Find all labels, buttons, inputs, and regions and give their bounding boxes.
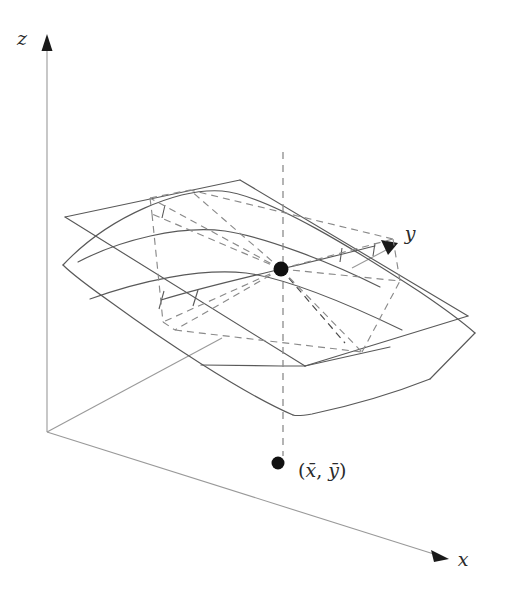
surface-tangent-plane-diagram: z y x (x̄, ȳ) [0,0,510,600]
projected-point-dot [272,457,285,470]
tangent-plane-edge-back-right [240,180,468,316]
point-label-xbar: x̄ [305,459,316,481]
tangent-ray-front-right-2 [281,269,362,352]
tick-mark-left-2 [193,290,198,306]
z-axis-arrowhead [42,34,53,51]
x-axis-arrowhead [431,550,449,562]
response-surface-edge-front [293,379,430,416]
point-label-comma: , [316,459,328,481]
point-label-ybar: ȳ [327,459,339,481]
intersection-curve [161,246,375,300]
tick-mark-right-2 [373,243,375,256]
y-axis-label: y [404,222,416,244]
projected-point-label: (x̄, ȳ) [298,459,346,481]
tangent-plane-edge-front-right [305,316,468,366]
tangent-ray-right [281,269,400,281]
y-axis-line-front [47,338,222,432]
point-label-close-paren: ) [339,459,346,481]
tick-mark-left-1 [159,291,164,309]
tangent-boundary-front [163,322,175,330]
x-axis-line [47,432,437,555]
response-surface-interior-curve-u [78,230,380,287]
x-axis-label: x [458,548,469,570]
tangent-ray-front-left-2 [175,269,281,330]
tangent-plane-edge-back-left [65,180,240,217]
tangent-boundary-back-right [190,190,393,239]
response-surface-edge-right [430,333,475,379]
intersection-curve-lower [201,365,305,366]
tangent-plane-edge-front-left [65,217,305,366]
tangent-ray-front-right [281,269,345,343]
figure-root: z y x (x̄, ȳ) [0,0,510,600]
tangent-boundary-right-lower [362,281,400,352]
tangent-ray-left [152,214,281,269]
axes-group [42,34,450,562]
z-axis-label: z [16,27,28,49]
stationary-point-dot [274,262,289,277]
tick-mark-upper-1 [162,205,165,218]
tangent-ray-back-left [150,198,281,269]
tangent-boundary-front-left [152,214,163,322]
point-label-open-paren: ( [298,459,305,481]
